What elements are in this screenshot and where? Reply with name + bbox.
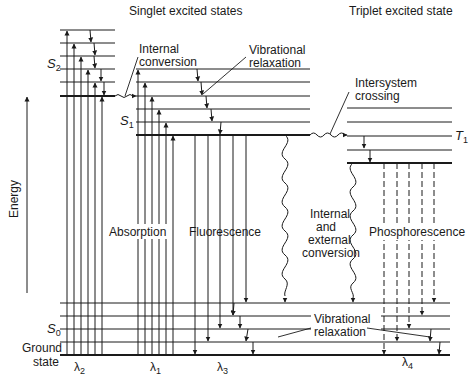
isc-label-2: crossing [355,89,400,103]
s1-levels [136,69,310,135]
s0-label: S0 [47,321,61,338]
isc-wave-icon [310,133,345,137]
fluorescence-arrows [195,135,246,354]
jablonski-diagram: Singlet excited states Triplet excited s… [0,0,474,381]
vib-relax-bottom-label-1: Vibrational [314,312,370,326]
ground-label-line1: Ground [22,341,62,355]
vib-relax-bottom-label-2: relaxation [314,325,366,339]
iec-label-2: and [316,220,336,234]
s0-levels [60,303,450,355]
s2-label: S2 [47,56,61,73]
lambda-2-label: λ2 [74,360,85,376]
iec-label-1: Internal [310,207,350,221]
energy-axis: Energy [7,97,27,293]
absorption-s2-arrows [67,31,102,355]
t1-levels [347,108,452,163]
vib-relax-top-label-2: relaxation [249,56,301,70]
isc-label-1: Intersystem [355,76,417,90]
internal-conversion-wave-icon [115,95,133,98]
absorption-s1-arrows [138,70,173,355]
vib-relax-top-label-1: Vibrational [249,43,305,57]
singlet-header: Singlet excited states [129,4,242,18]
internal-conversion-label-2: conversion [139,55,197,69]
lambda-4-label: λ4 [402,355,413,371]
absorption-label: Absorption [109,225,166,239]
t1-label: T1 [455,128,468,145]
triplet-header: Triplet excited state [349,4,453,18]
phosphorescence-arrows [384,163,434,354]
t1-vib-relax-arrows [364,136,370,162]
lambda-3-label: λ3 [217,360,228,376]
s1-vib-relax-arrows [197,69,221,134]
internal-conversion-label-1: Internal [139,42,179,56]
iec-label-3: external [308,233,351,247]
iec-label-4: conversion [302,246,360,260]
energy-label: Energy [7,180,21,218]
iec-s1-wave-icon [282,135,288,296]
s2-vib-relax-arrows [90,30,104,95]
iec-t1-wave-icon [350,163,356,298]
fluorescence-label: Fluorescence [189,225,261,239]
ground-label-line2: state [33,355,59,369]
phosphorescence-label: Phosphorescence [369,225,465,239]
s1-label: S1 [120,113,134,130]
lambda-1-label: λ1 [150,360,161,376]
